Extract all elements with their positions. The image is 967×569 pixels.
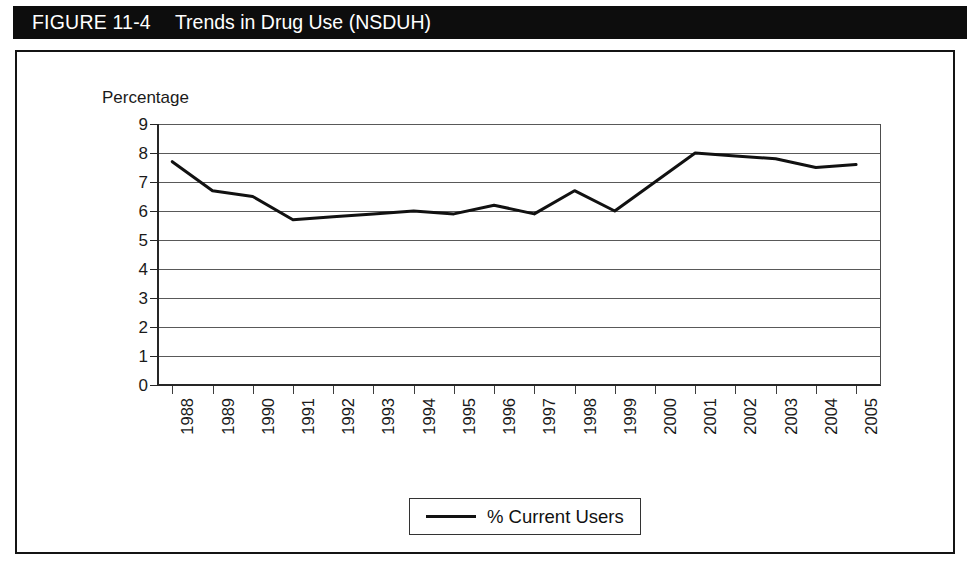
x-tick-mark bbox=[776, 385, 777, 394]
legend-label-current-users: % Current Users bbox=[487, 506, 624, 528]
x-tick-label: 2001 bbox=[702, 398, 719, 435]
x-tick-label: 1994 bbox=[421, 398, 438, 435]
x-tick-label: 1998 bbox=[582, 398, 599, 435]
figure-frame: Percentage 0123456789 198819891990199119… bbox=[15, 50, 955, 554]
x-tick-label: 1997 bbox=[541, 398, 558, 435]
x-tick-mark bbox=[655, 385, 656, 394]
x-tick-label: 1993 bbox=[380, 398, 397, 435]
figure-title-bar: FIGURE 11-4 Trends in Drug Use (NSDUH) bbox=[13, 6, 967, 39]
x-tick-mark bbox=[735, 385, 736, 394]
x-tick-label: 2005 bbox=[863, 398, 880, 435]
x-tick-mark bbox=[213, 385, 214, 394]
plot-area: 0123456789 19881989199019911992199319941… bbox=[157, 124, 881, 385]
x-tick-mark bbox=[454, 385, 455, 394]
y-tick-label: 2 bbox=[139, 319, 148, 336]
x-tick-mark bbox=[293, 385, 294, 394]
y-tick-label: 7 bbox=[139, 174, 148, 191]
y-axis-title: Percentage bbox=[102, 88, 189, 108]
x-tick-label: 1991 bbox=[300, 398, 317, 435]
x-tick-label: 2003 bbox=[783, 398, 800, 435]
x-tick-label: 1996 bbox=[501, 398, 518, 435]
series-line-current-users bbox=[157, 124, 881, 385]
x-tick-mark bbox=[373, 385, 374, 394]
x-tick-mark bbox=[816, 385, 817, 394]
x-tick-mark bbox=[494, 385, 495, 394]
x-tick-mark bbox=[695, 385, 696, 394]
x-tick-mark bbox=[253, 385, 254, 394]
chart-legend: % Current Users bbox=[409, 498, 641, 535]
y-tick-label: 9 bbox=[139, 116, 148, 133]
y-tick-label: 1 bbox=[139, 348, 148, 365]
x-tick-mark bbox=[856, 385, 857, 394]
x-tick-mark bbox=[414, 385, 415, 394]
x-tick-label: 1999 bbox=[622, 398, 639, 435]
y-tick-label: 8 bbox=[139, 145, 148, 162]
figure-title: Trends in Drug Use (NSDUH) bbox=[175, 11, 431, 34]
x-tick-mark bbox=[534, 385, 535, 394]
x-tick-mark bbox=[333, 385, 334, 394]
figure-number: FIGURE 11-4 bbox=[32, 11, 151, 34]
chart-region: Percentage 0123456789 198819891990199119… bbox=[17, 52, 957, 556]
y-tick-label: 3 bbox=[139, 290, 148, 307]
x-tick-mark bbox=[575, 385, 576, 394]
x-tick-mark bbox=[172, 385, 173, 394]
x-tick-label: 1990 bbox=[260, 398, 277, 435]
y-tick-label: 5 bbox=[139, 232, 148, 249]
x-tick-mark bbox=[615, 385, 616, 394]
legend-line-swatch bbox=[426, 515, 476, 518]
y-tick-label: 6 bbox=[139, 203, 148, 220]
x-tick-label: 2000 bbox=[662, 398, 679, 435]
x-tick-label: 1989 bbox=[220, 398, 237, 435]
x-tick-label: 1992 bbox=[340, 398, 357, 435]
x-tick-label: 2002 bbox=[742, 398, 759, 435]
x-tick-label: 1988 bbox=[179, 398, 196, 435]
y-tick-label: 4 bbox=[139, 261, 148, 278]
x-tick-label: 2004 bbox=[823, 398, 840, 435]
y-tick-label: 0 bbox=[139, 377, 148, 394]
x-tick-label: 1995 bbox=[461, 398, 478, 435]
